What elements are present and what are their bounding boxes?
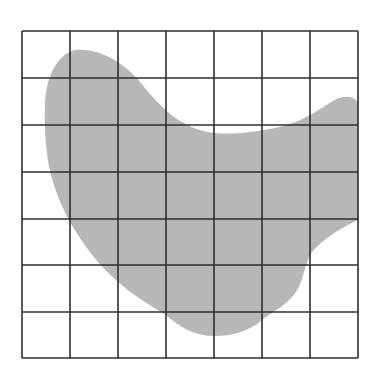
- grid-figure: [0, 0, 378, 382]
